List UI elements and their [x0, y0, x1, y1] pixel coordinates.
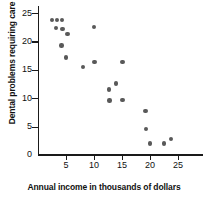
x-tick-label: 10: [83, 161, 105, 170]
origin-tick-label: 0: [27, 150, 32, 159]
y-tick-mark: [32, 98, 38, 99]
data-point: [65, 32, 69, 36]
data-point: [64, 55, 68, 59]
data-point: [54, 26, 58, 30]
data-point: [92, 60, 96, 64]
data-point: [148, 141, 152, 145]
data-point: [107, 98, 111, 102]
scatter-plot-figure: Dental problems requiring care Annual in…: [0, 0, 208, 200]
data-point: [81, 65, 85, 69]
data-point: [60, 27, 64, 31]
data-point: [162, 141, 166, 145]
data-point: [120, 98, 124, 102]
y-tick-label: 5: [6, 122, 32, 131]
data-point: [120, 60, 124, 64]
y-tick-label: 20: [6, 37, 32, 46]
x-tick-label: 15: [111, 161, 133, 170]
data-point: [114, 81, 118, 85]
y-tick-label: 25: [6, 9, 32, 18]
x-tick-label: 5: [55, 161, 77, 170]
data-point: [55, 18, 59, 22]
y-tick-label: 10: [6, 94, 32, 103]
data-point: [92, 25, 96, 29]
y-tick-mark: [32, 127, 38, 128]
data-point: [107, 87, 111, 91]
x-tick-label: 25: [167, 161, 189, 170]
data-point: [169, 137, 173, 141]
x-tick-label: 20: [139, 161, 161, 170]
y-tick-label: 15: [6, 65, 32, 74]
data-point: [144, 127, 148, 131]
data-point: [143, 109, 147, 113]
y-axis-line: [38, 6, 39, 156]
data-point: [60, 18, 64, 22]
plot-area: 0 510152025 510152025: [0, 0, 208, 200]
data-point: [50, 18, 54, 22]
y-tick-mark: [32, 13, 38, 14]
data-point: [59, 43, 63, 47]
y-tick-mark: [32, 41, 38, 42]
y-tick-mark: [32, 70, 38, 71]
